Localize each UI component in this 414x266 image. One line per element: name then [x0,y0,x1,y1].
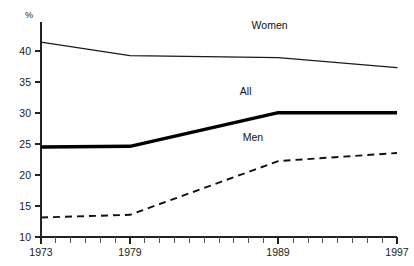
x-tick-label-1979: 1979 [118,246,142,258]
y-tick-label-30: 30 [19,107,31,119]
y-tick-label-15: 15 [19,200,31,212]
y-tick-label-20: 20 [19,169,31,181]
x-axis-minor-ticks [56,237,382,243]
series-label-all: All [240,85,252,97]
y-tick-label-40: 40 [19,45,31,57]
x-axis-tick-labels: 1973 1979 1989 1997 [29,246,409,258]
y-tick-label-10: 10 [19,231,31,243]
line-chart: % 10 15 20 25 30 35 40 [0,0,414,266]
y-tick-label-25: 25 [19,138,31,150]
x-tick-label-1989: 1989 [266,246,290,258]
series-label-women: Women [252,19,288,31]
x-tick-label-1973: 1973 [29,246,53,258]
x-tick-label-1997: 1997 [385,246,409,258]
chart-canvas: % 10 15 20 25 30 35 40 [0,0,414,266]
y-tick-label-35: 35 [19,76,31,88]
series-line-all [41,113,397,147]
y-axis-tick-labels: 10 15 20 25 30 35 40 [19,45,31,243]
y-axis-unit-label: % [25,10,33,20]
series-label-men: Men [243,131,264,143]
series-line-women [41,42,397,67]
series-line-men [41,153,397,218]
y-axis-ticks [35,51,41,237]
